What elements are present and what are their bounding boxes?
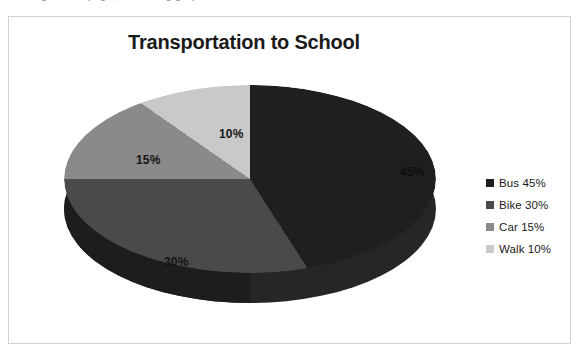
legend-item-car[interactable]: Car 15%: [486, 216, 572, 238]
legend-swatch-bike: [486, 201, 494, 209]
page-top-cutoff-text-label: working on this page, something graph: [8, 0, 204, 1]
pie-chart-3d: 45% 30% 15% 10%: [64, 85, 436, 303]
pie-slices: [64, 85, 436, 273]
legend-label-walk: Walk 10%: [499, 243, 551, 255]
chart-title: Transportation to School: [9, 31, 479, 54]
legend-item-bike[interactable]: Bike 30%: [486, 194, 572, 216]
page-top-cutoff-text: working on this page, something graph: [0, 0, 579, 13]
chart-legend: Bus 45% Bike 30% Car 15% Walk 10%: [486, 172, 572, 260]
pie-top-face: [64, 85, 436, 273]
pie-chart-plot-area: 45% 30% 15% 10%: [27, 67, 467, 327]
legend-item-walk[interactable]: Walk 10%: [486, 238, 572, 260]
legend-swatch-car: [486, 223, 494, 231]
pie-label-walk: 10%: [219, 127, 244, 141]
legend-item-bus[interactable]: Bus 45%: [486, 172, 572, 194]
legend-swatch-walk: [486, 245, 494, 253]
chart-frame: Transportation to School 45% 30% 15% 10%…: [8, 16, 571, 344]
pie-label-car: 15%: [136, 153, 161, 167]
pie-label-bike: 30%: [164, 255, 189, 269]
legend-label-bus: Bus 45%: [499, 177, 546, 189]
legend-swatch-bus: [486, 179, 494, 187]
legend-label-car: Car 15%: [499, 221, 544, 233]
legend-label-bike: Bike 30%: [499, 199, 548, 211]
pie-label-bus: 45%: [400, 165, 425, 179]
